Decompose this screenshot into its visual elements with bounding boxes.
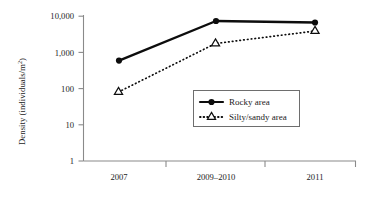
y-axis-ticks — [79, 16, 84, 161]
density-line-chart: Density (individuals/m2) 10,000 1,000 10… — [0, 0, 374, 198]
x-axis-tick-labels: 2007 2009–2010 2011 — [110, 172, 323, 182]
y-tick-label-1000: 1,000 — [55, 48, 74, 58]
x-tick-label-2009-2010: 2009–2010 — [197, 172, 236, 182]
rocky-point-2009-2010 — [213, 18, 219, 24]
silty-sandy-point-2011 — [311, 26, 319, 33]
x-axis-ticks — [166, 161, 356, 167]
y-axis-tick-labels: 10,000 1,000 100 10 1 — [50, 11, 74, 166]
y-tick-label-10: 10 — [65, 120, 74, 130]
legend-label-rocky-area: Rocky area — [229, 97, 270, 107]
y-tick-label-100: 100 — [61, 84, 74, 94]
y-axis-title-main: Density (individuals/m — [17, 64, 27, 145]
silty-sandy-point-2009-2010 — [211, 39, 219, 46]
y-axis-title: Density (individuals/m2) — [16, 58, 27, 145]
y-axis-title-tail: ) — [17, 58, 27, 61]
y-tick-label-10000: 10,000 — [50, 11, 74, 21]
x-tick-label-2007: 2007 — [110, 172, 128, 182]
svg-text:Density (individuals/m2): Density (individuals/m2) — [16, 58, 27, 145]
rocky-point-2007 — [116, 58, 122, 64]
legend-label-silty-sandy-area: Silty/sandy area — [229, 112, 287, 122]
rocky-point-2011 — [312, 19, 318, 25]
chart-legend: Rocky area Silty/sandy area — [194, 91, 300, 127]
y-tick-label-1: 1 — [70, 156, 74, 166]
legend-marker-filled-circle-icon — [208, 99, 214, 105]
chart-figure: Density (individuals/m2) 10,000 1,000 10… — [0, 0, 374, 198]
series-silty-sandy-area — [114, 26, 319, 94]
x-tick-label-2011: 2011 — [307, 172, 324, 182]
